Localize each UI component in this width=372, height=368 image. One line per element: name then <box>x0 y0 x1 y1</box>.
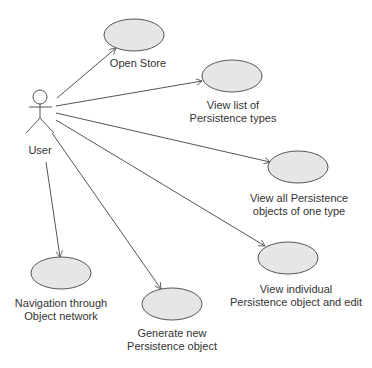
association-view-types <box>56 81 202 106</box>
actor-head-icon <box>33 90 47 104</box>
label-line: Object network <box>15 310 107 323</box>
label-line: View individual <box>230 283 362 296</box>
use-case-open-store[interactable] <box>104 19 164 51</box>
use-case-view-types[interactable] <box>202 60 262 92</box>
label-line: Navigation through <box>15 297 107 310</box>
use-case-label-view-types: View list of Persistence types <box>190 99 277 125</box>
label-line: objects of one type <box>250 205 348 218</box>
use-case-generate[interactable] <box>142 288 202 320</box>
use-case-label-view-individual: View individual Persistence object and e… <box>230 283 362 309</box>
association-navigation <box>46 162 60 257</box>
use-case-navigation[interactable] <box>31 257 91 289</box>
actor-right-leg <box>40 118 54 133</box>
label-line: Persistence types <box>190 112 277 125</box>
label-line: View all Persistence <box>250 192 348 205</box>
association-open-store <box>57 48 116 98</box>
label-line: View list of <box>190 99 277 112</box>
label-line: Generate new <box>127 327 217 340</box>
actor-label: User <box>28 144 51 157</box>
label-line: Persistence object and edit <box>230 296 362 309</box>
label-line: Open Store <box>110 57 166 70</box>
actor-user-figure[interactable] <box>26 90 54 133</box>
use-case-label-generate: Generate new Persistence object <box>127 327 217 353</box>
use-case-view-all[interactable] <box>268 151 328 183</box>
actor-left-leg <box>26 118 40 133</box>
use-case-label-navigation: Navigation through Object network <box>15 297 107 323</box>
use-case-label-open-store: Open Store <box>110 57 166 70</box>
use-case-view-individual[interactable] <box>258 242 318 274</box>
use-case-label-view-all: View all Persistence objects of one type <box>250 192 348 218</box>
label-line: Persistence object <box>127 340 217 353</box>
